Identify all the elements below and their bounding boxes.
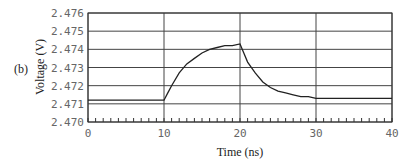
y-tick-label: 2.472 [51,80,84,93]
x-tick-label: 40 [385,127,398,140]
x-tick-label: 10 [157,127,170,140]
y-tick-label: 2.471 [51,98,84,111]
y-tick-label: 2.473 [51,62,84,75]
panel-label: (b) [14,62,28,76]
y-tick-label: 2.470 [51,116,84,129]
x-axis: 010203040 [85,118,399,140]
y-axis: 2.4702.4712.4722.4732.4742.4752.476 [51,7,84,129]
voltage-chart: (b) Voltage (V) Time (ns) 010203040 2.47… [0,0,404,161]
x-tick-label: 30 [309,127,322,140]
y-tick-label: 2.474 [51,43,84,56]
y-axis-title: Voltage (V) [33,39,47,95]
x-tick-label: 0 [85,127,92,140]
x-axis-title: Time (ns) [217,145,264,159]
y-tick-label: 2.475 [51,25,84,38]
grid [88,13,392,122]
x-tick-label: 20 [233,127,246,140]
y-tick-label: 2.476 [51,7,84,20]
